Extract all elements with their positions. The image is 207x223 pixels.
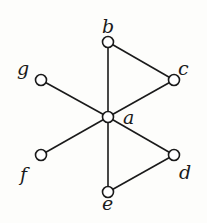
edge-b-c [108,42,174,80]
vertex-label-a: a [123,106,134,128]
edge-d-e [108,155,174,192]
vertex-label-d: d [179,161,191,183]
vertex-label-e: e [102,192,113,214]
vertex-label-b: b [102,15,114,37]
graph-diagram: abcdefg [0,0,207,223]
vertex-g [36,75,47,86]
edge-a-g [41,80,108,117]
vertex-f [36,150,47,161]
vertex-d [169,150,180,161]
vertex-label-g: g [17,57,29,79]
edge-a-c [108,80,174,117]
vertex-label-f: f [18,163,30,185]
edge-a-f [41,117,108,155]
graph-svg: abcdefg [0,0,207,223]
vertex-b [103,37,114,48]
vertex-a [103,112,114,123]
edge-a-d [108,117,174,155]
vertex-label-c: c [178,57,189,79]
